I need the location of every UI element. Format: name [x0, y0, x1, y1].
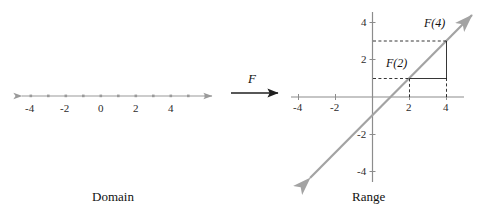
- domain-tick: [47, 95, 50, 98]
- domain-tick-label-4: 4: [168, 103, 174, 114]
- domain-tick: [100, 95, 103, 98]
- range-x-tick-label--4: -4: [293, 102, 302, 113]
- domain-tick-label--2: -2: [60, 103, 69, 114]
- domain-tick: [65, 95, 68, 98]
- guides-f4: [373, 41, 447, 97]
- domain-tick-label--4: -4: [25, 103, 34, 114]
- domain-tick: [152, 95, 155, 98]
- domain-number-line: [22, 95, 212, 98]
- range-x-tick-label--2: -2: [330, 102, 339, 113]
- range-caption: Range: [352, 190, 385, 203]
- range-y-tick-label-4: 4: [361, 17, 367, 28]
- domain-tick-label-0: 0: [98, 103, 104, 114]
- domain-caption: Domain: [92, 190, 134, 203]
- domain-tick: [30, 95, 33, 98]
- range-x-tick-label-4: 4: [443, 102, 449, 113]
- domain-tick: [117, 95, 120, 98]
- range-y-tick-label--2: -2: [357, 129, 366, 140]
- range-x-tick-label-2: 2: [406, 102, 412, 113]
- domain-tick: [135, 95, 138, 98]
- mapping-label-f: F: [248, 72, 256, 85]
- range-y-tick-label-2: 2: [361, 54, 367, 65]
- figure-canvas: [0, 0, 494, 214]
- domain-tick: [205, 95, 208, 98]
- domain-tick: [82, 95, 85, 98]
- annotation-f2-label: F(2): [386, 57, 407, 69]
- domain-tick: [170, 95, 173, 98]
- range-y-tick-label--4: -4: [357, 166, 366, 177]
- domain-tick: [187, 95, 190, 98]
- domain-tick-label-2: 2: [133, 103, 139, 114]
- range-plane: [291, 12, 472, 182]
- annotation-f4-label: F(4): [424, 17, 445, 29]
- function-mapping-figure: -4 -2 0 2 4 Domain F -4 -2 2 4 4 2 -2 -4…: [0, 0, 494, 214]
